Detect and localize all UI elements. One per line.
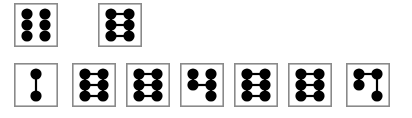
graph-tile[interactable] <box>15 64 57 106</box>
graph-tile[interactable] <box>99 4 141 46</box>
graph-node <box>39 19 50 30</box>
graph-node <box>259 90 270 101</box>
graph-node <box>259 68 270 79</box>
graph-node <box>79 90 90 101</box>
graph-node <box>205 79 216 90</box>
graph-node <box>105 19 116 30</box>
graph-node <box>123 8 134 19</box>
graph-node <box>241 90 252 101</box>
top-row <box>15 4 141 46</box>
tile-frame <box>347 64 389 106</box>
graph-tile[interactable] <box>73 64 115 106</box>
graph-node <box>371 90 382 101</box>
graph-node <box>353 68 364 79</box>
graph-node <box>30 68 41 79</box>
bottom-row <box>15 64 389 106</box>
graph-tile[interactable] <box>289 64 331 106</box>
graph-tile[interactable] <box>181 64 223 106</box>
tile-frame <box>15 4 57 46</box>
graph-node <box>295 79 306 90</box>
graph-tile[interactable] <box>15 4 57 46</box>
graph-node <box>30 90 41 101</box>
graph-node <box>133 79 144 90</box>
graph-node <box>21 8 32 19</box>
graph-tile[interactable] <box>235 64 277 106</box>
figure-canvas <box>0 0 412 118</box>
graph-tile[interactable] <box>347 64 389 106</box>
graph-node <box>39 30 50 41</box>
graph-node <box>187 79 198 90</box>
graph-node <box>313 68 324 79</box>
graph-node <box>151 68 162 79</box>
graph-node <box>97 68 108 79</box>
graph-node <box>123 19 134 30</box>
graph-node <box>295 90 306 101</box>
graph-node <box>21 30 32 41</box>
figure-root <box>15 4 389 106</box>
graph-node <box>313 79 324 90</box>
graph-node <box>21 19 32 30</box>
graph-node <box>151 90 162 101</box>
graph-node <box>151 79 162 90</box>
graph-node <box>205 90 216 101</box>
graph-node <box>353 79 364 90</box>
graph-node <box>205 68 216 79</box>
graph-node <box>97 79 108 90</box>
graph-node <box>79 79 90 90</box>
graph-node <box>241 79 252 90</box>
graph-node <box>97 90 108 101</box>
graph-tile[interactable] <box>127 64 169 106</box>
graph-node <box>295 68 306 79</box>
graph-node <box>133 90 144 101</box>
graph-node <box>39 8 50 19</box>
graph-node <box>79 68 90 79</box>
graph-node <box>123 30 134 41</box>
graph-node <box>371 68 382 79</box>
graph-node <box>187 68 198 79</box>
graph-node <box>241 68 252 79</box>
graph-node <box>105 30 116 41</box>
graph-node <box>105 8 116 19</box>
graph-node <box>313 90 324 101</box>
graph-tile-figure <box>0 0 412 118</box>
graph-node <box>259 79 270 90</box>
graph-node <box>133 68 144 79</box>
